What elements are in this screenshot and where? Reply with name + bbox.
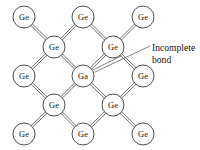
atom-symbol-label: Ge (108, 43, 118, 52)
atom-symbol-label: Ga (78, 72, 88, 81)
atom-ge-1-1: Ge (13, 6, 35, 28)
atom-ge-3-1: Ge (13, 65, 35, 87)
atom-ga-3-2: Ga (72, 65, 94, 87)
atom-ge-4-1: Ge (43, 94, 65, 116)
atom-ge-5-1: Ge (13, 123, 35, 145)
atom-symbol-label: Ge (138, 72, 148, 81)
atom-symbol-label: Ge (138, 13, 148, 22)
incomplete-bond-label-line2: bond (152, 54, 171, 65)
incomplete-bond-label-line1: Incomplete (152, 42, 195, 53)
lattice-svg-canvas: GeGeGeGeGeGeGaGeGeGeGeGeGe Incomplete bo… (0, 0, 200, 150)
atom-ge-1-3: Ge (132, 6, 154, 28)
atom-ge-5-3: Ge (132, 123, 154, 145)
atom-symbol-label: Ge (108, 101, 118, 110)
lattice-figure: GeGeGeGeGeGeGaGeGeGeGeGeGe Incomplete bo… (0, 0, 200, 150)
atom-symbol-label: Ge (138, 130, 148, 139)
atom-symbol-label: Ge (78, 13, 88, 22)
atom-ge-2-2: Ge (102, 36, 124, 58)
atom-symbol-label: Ge (49, 43, 59, 52)
atom-ge-3-3: Ge (132, 65, 154, 87)
atom-symbol-label: Ge (19, 72, 29, 81)
atom-ge-1-2: Ge (72, 6, 94, 28)
atom-ge-4-2: Ge (102, 94, 124, 116)
atom-symbol-label: Ge (78, 130, 88, 139)
atom-ge-5-2: Ge (72, 123, 94, 145)
atom-symbol-label: Ge (49, 101, 59, 110)
atom-symbol-label: Ge (19, 13, 29, 22)
atom-symbol-label: Ge (19, 130, 29, 139)
atom-ge-2-1: Ge (43, 36, 65, 58)
